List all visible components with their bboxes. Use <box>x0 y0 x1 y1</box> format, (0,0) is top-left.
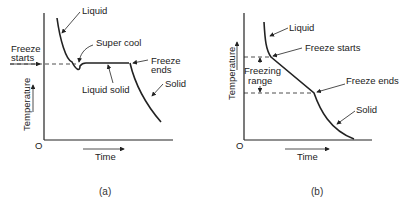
label-liquid-a: Liquid <box>82 6 107 16</box>
caption-a: (a) <box>99 186 111 197</box>
cooling-curves-diagram <box>0 0 404 213</box>
x-axis-label-b: Time <box>297 152 318 162</box>
label-freeze-ends-a-2: ends <box>151 65 172 75</box>
x-axis-label-a: Time <box>95 152 116 162</box>
panel-a-axes <box>44 13 173 140</box>
label-freeze-ends-b: Freeze ends <box>346 76 399 86</box>
label-liquid-solid: Liquid solid <box>82 85 130 95</box>
caption-b: (b) <box>311 186 323 197</box>
label-freezing-range-2: range <box>248 76 272 86</box>
label-solid-a: Solid <box>165 79 186 89</box>
label-super-cool: Super cool <box>96 38 141 48</box>
label-freeze-starts-b: Freeze starts <box>305 43 360 53</box>
label-liquid-b: Liquid <box>289 23 314 33</box>
origin-a: O <box>35 141 42 151</box>
y-axis-label-b: Temperature <box>226 47 237 100</box>
label-freeze-starts-a-2: starts <box>11 53 34 63</box>
origin-b: O <box>236 141 243 151</box>
label-solid-b: Solid <box>356 105 377 115</box>
y-axis-label-a: Temperature <box>21 78 32 131</box>
